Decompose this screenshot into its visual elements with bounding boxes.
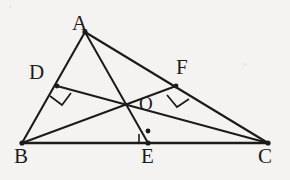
point-label-F: F: [176, 57, 188, 78]
geometry-figure: A B C D E F O: [0, 0, 290, 180]
right-angle-at-D: [50, 93, 71, 105]
vertex-dot-D: [55, 84, 60, 89]
point-label-O: O: [139, 94, 153, 113]
paper-speck: [243, 63, 247, 66]
vertex-dot-O: [146, 129, 151, 134]
altitude-BF: [22, 86, 176, 143]
altitude-AE: [85, 32, 148, 143]
altitude-CD: [57, 86, 268, 143]
right-angle-at-F: [167, 95, 189, 107]
vertex-dot-F: [174, 84, 179, 89]
side-AB: [22, 32, 85, 143]
point-label-B: B: [14, 146, 28, 167]
paper-speck: [9, 5, 12, 8]
point-label-D: D: [29, 62, 44, 83]
point-label-E: E: [141, 146, 154, 167]
point-label-A: A: [72, 13, 87, 34]
point-label-C: C: [258, 146, 272, 167]
